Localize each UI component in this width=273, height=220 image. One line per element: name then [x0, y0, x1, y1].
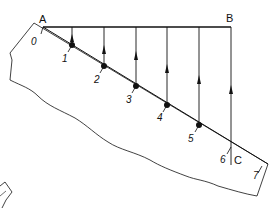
- projection-lines: [72, 27, 231, 165]
- division-5: 5: [188, 133, 194, 144]
- division-4: 4: [157, 112, 163, 123]
- label-c: C: [234, 154, 242, 166]
- arrow-icons: [70, 34, 233, 94]
- ruler-fragment-inner: [0, 191, 6, 196]
- label-b: B: [226, 12, 233, 24]
- division-3: 3: [126, 94, 132, 105]
- ruler-outline: [10, 23, 268, 196]
- division-0: 0: [31, 36, 37, 47]
- division-7: 7: [253, 170, 259, 181]
- division-6: 6: [220, 154, 226, 165]
- division-2: 2: [93, 74, 100, 85]
- label-a: A: [39, 13, 47, 25]
- division-1: 1: [62, 53, 68, 64]
- ruler-fragment: [0, 182, 12, 208]
- division-ticks: [41, 27, 262, 173]
- line-division-diagram: A B C 0 1 2 3 4 5 6 7: [0, 0, 273, 220]
- line-ac: [43, 27, 268, 164]
